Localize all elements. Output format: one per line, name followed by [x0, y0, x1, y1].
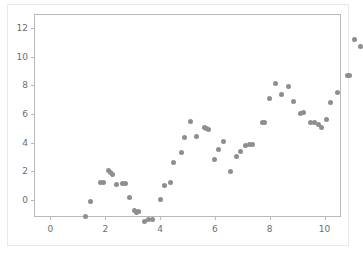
y-axis-tick-mark: [31, 85, 34, 86]
data-point: [267, 96, 272, 101]
data-point: [101, 180, 106, 185]
y-axis-tick-label: 2: [0, 167, 28, 176]
data-point: [136, 209, 141, 214]
x-axis-tick-label: 4: [157, 225, 163, 234]
data-point: [171, 160, 176, 165]
data-point: [123, 181, 128, 186]
y-axis-tick-label: 4: [0, 138, 28, 147]
data-point: [286, 84, 291, 89]
data-point: [358, 44, 363, 49]
x-axis-tick-mark: [215, 217, 216, 220]
y-axis-tick-label: 12: [0, 24, 28, 33]
data-point: [216, 147, 221, 152]
data-point: [238, 149, 243, 154]
data-point: [158, 197, 163, 202]
x-axis-tick-mark: [160, 217, 161, 220]
data-point: [319, 125, 324, 130]
data-point: [262, 120, 267, 125]
data-point: [168, 180, 173, 185]
data-point: [150, 217, 155, 222]
plot-area: [34, 14, 341, 217]
data-point: [110, 172, 115, 177]
x-axis-tick-mark: [270, 217, 271, 220]
y-axis-tick-label: 0: [0, 195, 28, 204]
data-point: [194, 134, 199, 139]
x-axis-tick-label: 8: [267, 225, 273, 234]
data-point: [324, 117, 329, 122]
data-point: [279, 92, 284, 97]
data-point: [188, 119, 193, 124]
data-point: [352, 37, 357, 42]
y-axis-tick-mark: [31, 114, 34, 115]
data-point: [212, 157, 217, 162]
x-axis-tick-mark: [325, 217, 326, 220]
data-point: [291, 99, 296, 104]
data-point: [221, 139, 226, 144]
y-axis-tick-label: 8: [0, 81, 28, 90]
x-axis-tick-mark: [105, 217, 106, 220]
y-axis-tick-mark: [31, 28, 34, 29]
y-axis-tick-mark: [31, 200, 34, 201]
data-point: [234, 154, 239, 159]
y-axis-tick-mark: [31, 143, 34, 144]
data-point: [162, 183, 167, 188]
data-point: [182, 135, 187, 140]
data-point: [228, 169, 233, 174]
data-point: [273, 81, 278, 86]
data-point: [179, 150, 184, 155]
data-point: [335, 90, 340, 95]
x-axis-tick-label: 2: [102, 225, 108, 234]
data-point: [250, 142, 255, 147]
data-point: [127, 195, 132, 200]
x-axis-tick-label: 10: [319, 225, 330, 234]
data-point: [114, 182, 119, 187]
data-point: [88, 199, 93, 204]
y-axis-tick-label: 6: [0, 110, 28, 119]
data-point: [206, 127, 211, 132]
data-point: [347, 73, 352, 78]
data-point: [301, 110, 306, 115]
y-axis-tick-mark: [31, 171, 34, 172]
y-axis-tick-mark: [31, 57, 34, 58]
y-axis-tick-label: 10: [0, 52, 28, 61]
x-axis-tick-label: 0: [48, 225, 54, 234]
x-axis-tick-label: 6: [212, 225, 218, 234]
x-axis-tick-mark: [50, 217, 51, 220]
data-point: [328, 100, 333, 105]
